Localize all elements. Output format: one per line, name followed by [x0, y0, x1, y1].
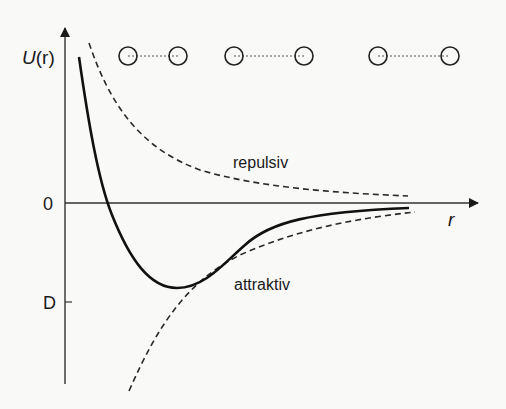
repulsive-label: repulsiv [233, 154, 288, 171]
attractive-label: attraktiv [234, 276, 290, 293]
repulsive-curve [89, 43, 408, 196]
depth-label: D [43, 293, 56, 313]
x-axis-label: r [448, 209, 455, 230]
attractive-curve [129, 212, 415, 391]
y-axis-label: U(r) [22, 47, 55, 68]
atom-pair-2 [225, 47, 313, 65]
atom-pair-3 [369, 47, 459, 65]
atom-pair-1 [119, 47, 187, 65]
potential-energy-diagram: U(r) 0 D r repulsiv attraktiv [0, 0, 506, 409]
zero-label: 0 [43, 194, 53, 214]
